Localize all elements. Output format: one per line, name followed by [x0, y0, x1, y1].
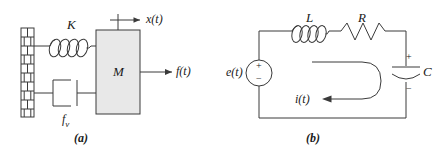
capacitor-plus-sign: + — [406, 52, 412, 62]
force-label: f(t) — [176, 65, 191, 77]
source-voltage-label: e(t) — [226, 66, 243, 78]
damper-coefficient-subscript: v — [65, 119, 69, 129]
current-loop-arrow-icon — [312, 62, 381, 103]
source-plus-sign: + — [256, 61, 262, 71]
source-minus-sign: − — [256, 74, 262, 84]
damper-icon — [34, 80, 96, 106]
resistance-label: R — [358, 11, 366, 24]
panel-b-caption: (b) — [306, 131, 320, 146]
displacement-label: x(t) — [146, 13, 163, 25]
mass-label: M — [113, 65, 124, 78]
capacitance-label: C — [423, 65, 432, 78]
displacement-arrow-icon — [110, 14, 140, 30]
inductance-label: L — [306, 11, 313, 24]
damper-coefficient-label: fv — [62, 110, 69, 129]
spring-constant-label: K — [67, 18, 76, 31]
fixed-wall-icon — [21, 28, 34, 117]
capacitor-minus-sign: − — [406, 84, 412, 94]
figure-container: K M fv x(t) f(t) (a) e(t) + − L R C + − … — [0, 0, 439, 158]
figure-line-art — [0, 0, 439, 158]
capacitor-icon — [392, 67, 420, 79]
circuit-wires — [259, 31, 406, 118]
force-arrow-icon — [140, 69, 172, 75]
spring-icon — [34, 38, 96, 58]
panel-a-caption: (a) — [74, 131, 88, 146]
current-label: i(t) — [295, 93, 310, 105]
inductor-icon — [290, 25, 329, 44]
resistor-icon — [341, 23, 388, 40]
